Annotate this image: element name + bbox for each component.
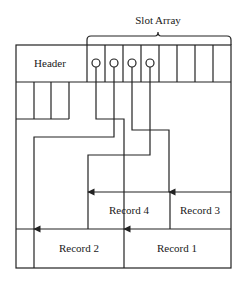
slot-array-label: Slot Array bbox=[135, 14, 181, 26]
slot-1-pointer-icon bbox=[92, 59, 100, 67]
slot-4-pointer-icon bbox=[146, 59, 154, 67]
record-row-lower bbox=[16, 229, 231, 268]
slot-2-pointer-icon bbox=[110, 59, 118, 67]
slotted-page-diagram: Slot Array Header Record 4 Record bbox=[0, 0, 244, 281]
slot-array bbox=[105, 45, 213, 82]
record-1-label: Record 1 bbox=[157, 242, 197, 254]
connector-slot-2-record-2 bbox=[34, 67, 114, 229]
record-2-label: Record 2 bbox=[59, 242, 99, 254]
record-3-label: Record 3 bbox=[180, 204, 221, 216]
record-4-label: Record 4 bbox=[109, 204, 150, 216]
slot-3-pointer-icon bbox=[128, 59, 136, 67]
slot-array-brace bbox=[87, 32, 231, 45]
header-label: Header bbox=[34, 57, 66, 69]
slot-array-overflow bbox=[16, 82, 69, 119]
